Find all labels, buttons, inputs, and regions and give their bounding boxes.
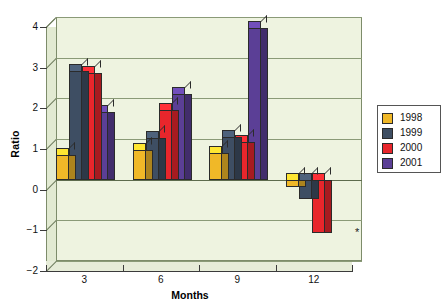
legend-label: 2001	[400, 158, 422, 168]
bar-top-face	[172, 87, 185, 94]
legend-item[interactable]: 2001	[382, 156, 436, 170]
bar-side-face	[248, 142, 255, 179]
bar-side-face	[299, 180, 306, 187]
x-axis-tick-label: 6	[141, 274, 181, 285]
bar	[56, 155, 69, 179]
bar-top-face	[159, 103, 172, 110]
bar-top-face	[69, 64, 82, 71]
legend-item[interactable]: 2000	[382, 141, 436, 155]
bar-side-face	[108, 112, 115, 180]
x-axis-title: Months	[0, 289, 380, 301]
annotation-asterisk: *	[355, 228, 359, 236]
bar-side-face	[185, 94, 192, 179]
bar	[133, 150, 146, 179]
x-axis-tick	[123, 265, 124, 272]
bar-top-face	[222, 130, 235, 137]
x-axis-tick	[199, 265, 200, 272]
bar-side-face	[172, 110, 179, 180]
legend-swatch-icon	[382, 128, 393, 139]
x-axis-tick-label: 12	[294, 274, 334, 285]
bar-front-face	[209, 153, 222, 179]
bar-side-face	[146, 150, 153, 179]
bar-front-face	[286, 180, 299, 187]
legend-label: 1999	[400, 128, 422, 138]
bar-side-face	[325, 180, 332, 234]
x-axis-tick-label: 9	[217, 274, 257, 285]
legend-swatch-icon	[382, 158, 393, 169]
bar-side-face	[261, 28, 268, 180]
bar	[286, 180, 299, 187]
bar-side-face	[312, 180, 319, 200]
legend-label: 2000	[400, 143, 422, 153]
bar-side-face	[159, 138, 166, 179]
bar-top-face	[209, 146, 222, 153]
bar-top-face	[286, 173, 299, 180]
chart-root: 43210−1−2 Ratio 36912 Months * 1998 1999…	[0, 0, 446, 304]
bar-top-face	[248, 21, 261, 28]
legend: 1998 1999 2000 2001	[377, 105, 441, 173]
bar-side-face	[95, 73, 102, 180]
bar-top-face	[146, 131, 159, 138]
legend-swatch-icon	[382, 113, 393, 124]
legend-item[interactable]: 1998	[382, 111, 436, 125]
x-axis-tick	[46, 265, 47, 272]
x-axis-tick	[276, 265, 277, 272]
bar-top-face	[133, 143, 146, 150]
legend-label: 1998	[400, 113, 422, 123]
bar-front-face	[56, 155, 69, 179]
bar	[209, 153, 222, 179]
legend-swatch-icon	[382, 143, 393, 154]
x-axis-tick-label: 3	[64, 274, 104, 285]
bar-side-face	[82, 71, 89, 180]
bar-side-face	[69, 155, 76, 179]
bar-side-face	[222, 153, 229, 179]
bar-front-face	[133, 150, 146, 179]
legend-item[interactable]: 1999	[382, 126, 436, 140]
bar-top-face	[56, 148, 69, 155]
x-axis-tick	[352, 265, 353, 272]
bar-side-face	[235, 137, 242, 180]
